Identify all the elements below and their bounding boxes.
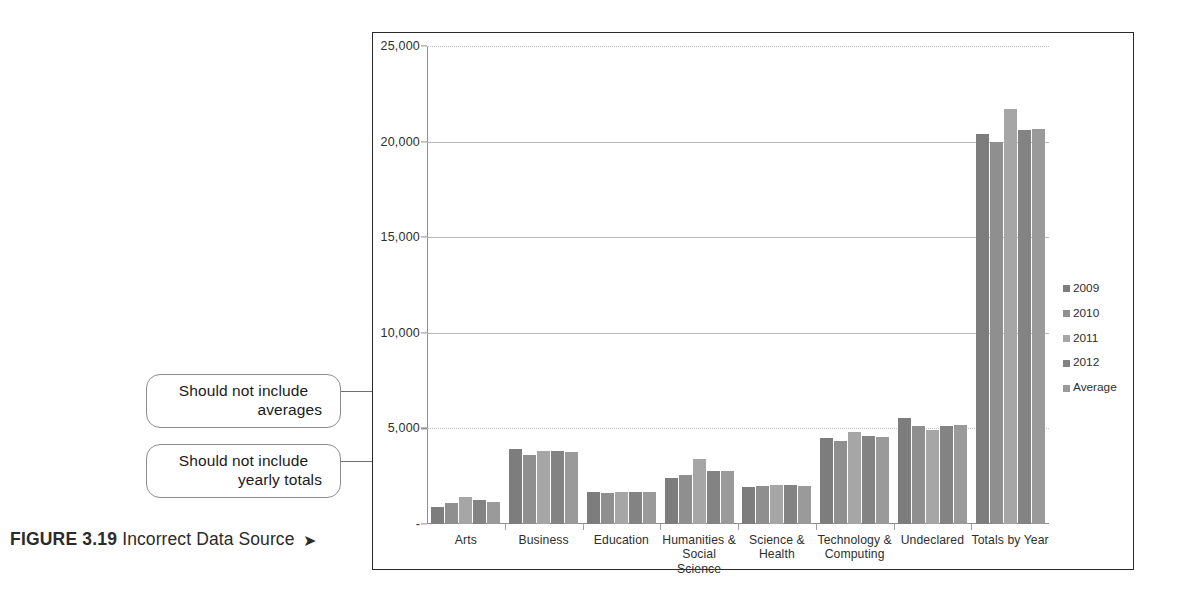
bar [976, 134, 989, 524]
bar [756, 486, 769, 524]
callout-averages: Should not include averages [146, 374, 341, 428]
bar-group [971, 46, 1049, 524]
bar [990, 142, 1003, 524]
bar [876, 437, 889, 524]
legend-label: Average [1073, 382, 1117, 394]
bar [940, 426, 953, 524]
bar [798, 486, 811, 524]
bar [445, 503, 458, 524]
x-tick-label: Education [583, 533, 661, 547]
bar [898, 418, 911, 524]
bar [721, 471, 734, 524]
figure-caption: FIGURE 3.19 Incorrect Data Source ➤ [10, 528, 330, 551]
bar [431, 507, 444, 524]
y-tick-label: 15,000 [381, 230, 420, 244]
bar-group [427, 46, 505, 524]
bar [587, 492, 600, 525]
bar [1032, 129, 1045, 524]
y-tick-label: 5,000 [388, 421, 420, 435]
x-tick-separator [894, 524, 895, 530]
bar [487, 502, 500, 524]
legend-swatch-icon [1063, 360, 1070, 367]
x-tick-label: Totals by Year [971, 533, 1049, 547]
legend-swatch-icon [1063, 335, 1070, 342]
x-tick-label: Undeclared [894, 533, 972, 547]
bar [601, 493, 614, 524]
bar [537, 451, 550, 524]
bar [565, 452, 578, 524]
x-tick-separator [816, 524, 817, 530]
bar [926, 430, 939, 524]
x-tick-separator [660, 524, 661, 530]
callout-totals-line2: yearly totals [159, 471, 328, 490]
legend-swatch-icon [1063, 385, 1070, 392]
bar [770, 485, 783, 524]
bar [643, 492, 656, 524]
bar [473, 500, 486, 524]
bar [784, 485, 797, 524]
bar-group [660, 46, 738, 524]
y-tick-label: 10,000 [381, 326, 420, 340]
x-tick-separator [583, 524, 584, 530]
legend-label: 2011 [1073, 333, 1098, 345]
bar [509, 449, 522, 524]
bar-group [816, 46, 894, 524]
plot-area: -5,00010,00015,00020,00025,000 ArtsBusin… [427, 46, 1049, 524]
bar [551, 451, 564, 524]
legend-item: 2012 [1063, 357, 1117, 369]
legend-label: 2010 [1073, 308, 1099, 320]
arrow-icon: ➤ [300, 532, 316, 549]
bar [1018, 130, 1031, 524]
legend-swatch-icon [1063, 310, 1070, 317]
legend-swatch-icon [1063, 285, 1070, 292]
bar [459, 497, 472, 524]
callout-totals-line1: Should not include [179, 452, 308, 469]
callout-averages-line2: averages [159, 401, 328, 420]
bar [912, 426, 925, 524]
bar-group [738, 46, 816, 524]
bar-group [894, 46, 972, 524]
bar [629, 492, 642, 524]
callout-averages-line1: Should not include [179, 382, 308, 399]
legend-item: 2009 [1063, 283, 1117, 295]
figure-number: FIGURE 3.19 [10, 529, 117, 549]
chart-frame: -5,00010,00015,00020,00025,000 ArtsBusin… [372, 32, 1134, 570]
bar-group [583, 46, 661, 524]
y-tick-label: - [416, 517, 420, 531]
x-tick-separator [505, 524, 506, 530]
x-tick-separator [738, 524, 739, 530]
legend-label: 2012 [1073, 357, 1099, 369]
bar [862, 436, 875, 524]
figure-title: Incorrect Data Source [122, 529, 294, 549]
legend-item: 2011 [1063, 333, 1117, 345]
x-tick-label: Humanities & Social Science [660, 533, 738, 576]
bar [523, 455, 536, 524]
bar [707, 471, 720, 524]
x-tick-label: Technology & Computing [816, 533, 894, 562]
bar [820, 438, 833, 524]
x-tick-label: Science & Health [738, 533, 816, 562]
bar [742, 487, 755, 524]
bar [693, 459, 706, 524]
bar [665, 478, 678, 524]
legend-item: 2010 [1063, 308, 1117, 320]
y-tick-label: 25,000 [381, 39, 420, 53]
x-tick-label: Arts [427, 533, 505, 547]
legend-label: 2009 [1073, 283, 1099, 295]
bar [848, 432, 861, 524]
bar [615, 492, 628, 525]
chart-legend: 2009201020112012Average [1063, 283, 1117, 407]
y-tick-label: 20,000 [381, 135, 420, 149]
bar [1004, 109, 1017, 524]
x-tick-separator [971, 524, 972, 530]
callout-yearly-totals: Should not include yearly totals [146, 444, 341, 498]
x-tick-label: Business [505, 533, 583, 547]
bar [954, 425, 967, 524]
bar [679, 475, 692, 524]
bar [834, 441, 847, 524]
bar-group [505, 46, 583, 524]
legend-item: Average [1063, 382, 1117, 394]
